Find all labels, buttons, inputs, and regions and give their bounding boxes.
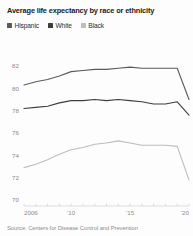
y-tick-label: 70 bbox=[12, 196, 19, 203]
x-tick-label: '20 bbox=[181, 209, 190, 216]
y-tick-label: 76 bbox=[12, 129, 19, 136]
x-tick-label: '15 bbox=[126, 209, 135, 216]
legend-swatch-white bbox=[48, 23, 53, 28]
y-tick-label: 78 bbox=[12, 107, 19, 114]
series-line-hispanic bbox=[24, 67, 189, 99]
legend-item-hispanic[interactable]: Hispanic bbox=[7, 22, 39, 29]
y-tick-label: 82 bbox=[12, 62, 19, 69]
legend-label-hispanic: Hispanic bbox=[15, 22, 40, 29]
legend-item-black[interactable]: Black bbox=[81, 22, 104, 29]
legend-label-black: Black bbox=[88, 22, 104, 29]
legend-item-white[interactable]: White bbox=[48, 22, 72, 29]
y-axis-ticks: 70727476788082 bbox=[12, 62, 19, 203]
series-line-black bbox=[24, 141, 189, 180]
y-tick-label: 72 bbox=[12, 174, 19, 181]
x-tick-label: 2006 bbox=[24, 209, 38, 216]
chart-series-group bbox=[24, 67, 189, 180]
legend-swatch-hispanic bbox=[7, 23, 12, 28]
chart-plot-area: 70727476788082 2006'10'15'20 bbox=[0, 40, 193, 218]
chart-legend: Hispanic White Black bbox=[7, 22, 104, 29]
chart-card: Average life expectancy by race or ethni… bbox=[0, 0, 193, 236]
legend-swatch-black bbox=[81, 23, 86, 28]
line-chart-svg: 70727476788082 2006'10'15'20 bbox=[0, 40, 193, 218]
series-line-white bbox=[24, 100, 189, 116]
source-note: Source: Centers for Disease Control and … bbox=[7, 225, 138, 231]
y-tick-label: 74 bbox=[12, 152, 19, 159]
x-tick-label: '10 bbox=[67, 209, 76, 216]
x-axis-ticks: 2006'10'15'20 bbox=[24, 204, 190, 217]
legend-label-white: White bbox=[56, 22, 72, 29]
y-tick-label: 80 bbox=[12, 85, 19, 92]
page-title: Average life expectancy by race or ethni… bbox=[7, 6, 187, 15]
